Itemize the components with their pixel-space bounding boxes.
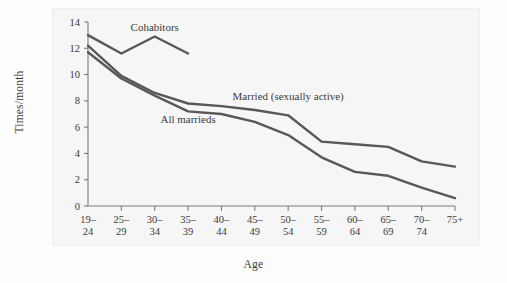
series-line: [88, 35, 188, 53]
x-tick-label-second-line: 44: [216, 226, 227, 237]
x-tick-label: 65–: [380, 214, 397, 225]
line-chart: 0246810121419–2425–2930–3435–3940–4445–4…: [0, 0, 507, 283]
x-tick-label-second-line: 39: [183, 226, 194, 237]
y-axis-title: Times/month: [13, 47, 25, 157]
x-tick-label-second-line: 54: [283, 226, 294, 237]
x-tick-label: 45–: [247, 214, 264, 225]
x-tick-label: 55–: [314, 214, 331, 225]
x-tick-label-second-line: 69: [383, 226, 394, 237]
x-tick-label-second-line: 34: [149, 226, 160, 237]
y-tick-label: 2: [75, 174, 80, 185]
x-tick-label: 75+: [447, 214, 464, 225]
x-tick-label-second-line: 24: [83, 226, 94, 237]
y-tick-label: 10: [70, 69, 81, 80]
series-label: Married (sexually active): [233, 90, 345, 103]
series-line: [88, 46, 455, 167]
x-tick-label: 30–: [147, 214, 164, 225]
x-tick-label: 60–: [347, 214, 364, 225]
y-tick-label: 4: [75, 148, 81, 159]
x-tick-label-second-line: 49: [250, 226, 261, 237]
x-tick-label: 25–: [113, 214, 130, 225]
y-tick-label: 14: [70, 17, 81, 28]
y-tick-label: 8: [75, 95, 80, 106]
series-label: Cohabitors: [131, 21, 179, 33]
x-tick-label: 40–: [214, 214, 231, 225]
y-tick-label: 12: [70, 43, 81, 54]
series-line: [88, 52, 455, 198]
chart-figure: 0246810121419–2425–2930–3435–3940–4445–4…: [0, 0, 507, 283]
x-axis-title: Age: [0, 258, 507, 270]
x-tick-label-second-line: 29: [116, 226, 127, 237]
series-label: All marrieds: [160, 113, 215, 125]
x-tick-label: 70–: [414, 214, 431, 225]
x-tick-label-second-line: 64: [350, 226, 361, 237]
axis-lines: [88, 22, 455, 206]
x-tick-label: 50–: [280, 214, 297, 225]
y-tick-label: 0: [75, 201, 80, 212]
x-tick-label: 19–: [80, 214, 97, 225]
x-tick-label-second-line: 74: [416, 226, 427, 237]
x-tick-label: 35–: [180, 214, 197, 225]
y-tick-label: 6: [75, 122, 80, 133]
x-tick-label-second-line: 59: [316, 226, 327, 237]
